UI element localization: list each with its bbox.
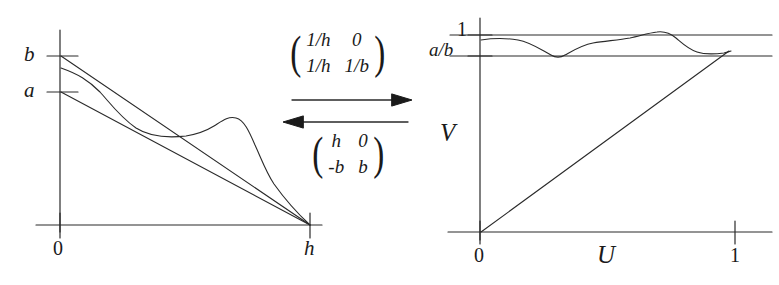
right-axis-label-one-x: 1 — [730, 245, 740, 265]
matrix-entries: h 0 -b b — [325, 128, 370, 180]
left-plot-curves — [61, 56, 310, 225]
matrix-close-paren: ) — [374, 27, 385, 79]
matrix-open-paren: ( — [290, 27, 301, 79]
right-axis-label-zero: 0 — [474, 245, 484, 265]
left-upper-bound-line — [61, 56, 310, 225]
matrix-entry-r0c0: 1/h — [306, 29, 330, 50]
matrix-entry-r1c1: b — [358, 156, 368, 177]
left-axis-label-b: b — [24, 44, 35, 65]
figure-canvas — [0, 0, 779, 285]
right-diagonal-line — [481, 51, 729, 232]
left-oscillating-curve — [61, 68, 310, 225]
right-axis-label-one-y: 1 — [457, 19, 467, 39]
right-axis-label-ab: a/b — [429, 40, 453, 59]
forward-transform-matrix: ( 1/h 0 1/h 1/b ) — [288, 27, 387, 79]
center-arrows — [283, 94, 412, 128]
matrix-entry-r0c1: 0 — [358, 130, 368, 151]
backward-arrow-head — [283, 116, 303, 128]
matrix-entry-r0c1: 0 — [352, 29, 362, 50]
right-axis-title-u: U — [597, 242, 615, 267]
left-plot-axes — [36, 30, 322, 238]
matrix-open-paren: ( — [312, 128, 323, 180]
matrix-entry-r1c1: 1/b — [345, 55, 369, 76]
backward-transform-matrix: ( h 0 -b b ) — [310, 128, 386, 180]
right-plot-axes — [448, 18, 772, 244]
right-plot-curves — [450, 32, 772, 232]
right-axis-title-v: V — [440, 120, 455, 145]
left-lower-bound-line — [61, 92, 310, 225]
matrix-close-paren: ) — [373, 128, 384, 180]
matrix-entry-r0c0: h — [331, 130, 341, 151]
left-axis-label-a: a — [24, 80, 35, 101]
matrix-entries: 1/h 0 1/h 1/b — [303, 27, 372, 79]
right-oscillating-curve — [481, 32, 731, 58]
math-figure: b a 0 h ( 1/h 0 1/h 1/b ) ( h 0 -b b ) — [0, 0, 779, 285]
matrix-entry-r1c0: -b — [328, 156, 344, 177]
matrix-entry-r1c0: 1/h — [306, 55, 330, 76]
left-axis-label-h: h — [304, 238, 315, 259]
left-axis-label-zero: 0 — [53, 238, 63, 258]
forward-arrow-head — [392, 94, 412, 106]
